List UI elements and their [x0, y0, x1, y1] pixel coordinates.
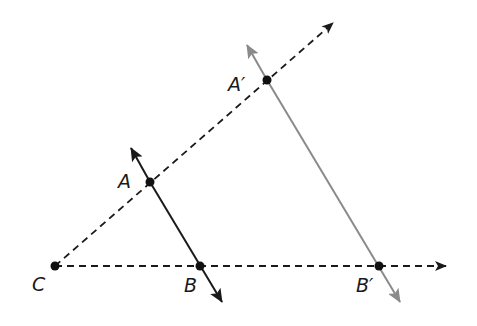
label-b-prime: B′ — [356, 274, 374, 296]
point-b — [196, 262, 205, 271]
label-c: C — [32, 273, 46, 295]
line-ab — [131, 148, 150, 182]
point-b-prime — [375, 262, 384, 271]
diagram-svg: C A B A′ B′ — [0, 0, 477, 326]
point-a — [146, 178, 155, 187]
line-a-prime-b-prime — [247, 45, 267, 80]
dilation-diagram: C A B A′ B′ — [0, 0, 477, 326]
point-c — [51, 262, 60, 271]
label-a-prime: A′ — [226, 73, 246, 95]
point-a-prime — [263, 76, 272, 85]
ray-ca-dashed — [55, 23, 333, 266]
label-b: B — [184, 274, 197, 296]
label-a: A — [116, 170, 131, 192]
